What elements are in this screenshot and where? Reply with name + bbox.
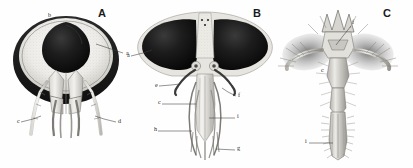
panel-letter-a: A [98, 7, 106, 19]
figure-b-ocellus-left [201, 19, 203, 21]
label-b-a: a [127, 51, 130, 58]
figure-b-ocellus-right [207, 19, 209, 21]
figure-b-ocellus-median [204, 24, 206, 26]
label-c-i: i [305, 137, 307, 144]
label-b-i: i [237, 112, 239, 119]
panel-letter-c: C [383, 7, 391, 19]
figure-b-frons-texture [196, 13, 214, 58]
panel-letter-b: B [253, 7, 261, 19]
label-c-c: c [321, 66, 324, 73]
figure-b-right-socket-center [212, 64, 216, 68]
label-a-c: c [17, 117, 20, 124]
label-b-e: e [155, 81, 158, 88]
illustration-plate: A b a c d B a e f c i h g C f c i [0, 0, 413, 168]
label-b-g: g [237, 144, 240, 151]
figure-b-left-socket-center [194, 64, 198, 68]
figure-c-thorax [327, 58, 349, 88]
label-a-b: b [48, 11, 51, 18]
plate-canvas: A b a c d B a e f c i h g C f c i [0, 0, 413, 168]
label-b-c: c [158, 98, 161, 105]
